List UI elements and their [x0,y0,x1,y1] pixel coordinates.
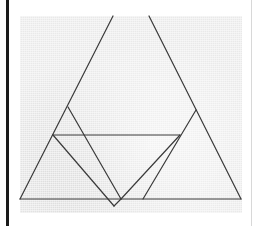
big-triangle-right-side [149,16,241,199]
right-diagonal-outer [143,110,196,199]
big-triangle-left-side [20,16,113,199]
bottom-notch [114,199,121,206]
right-diagonal-inner [121,135,180,199]
left-diagonal-inner [68,107,121,199]
triangle-diagram [0,0,257,226]
